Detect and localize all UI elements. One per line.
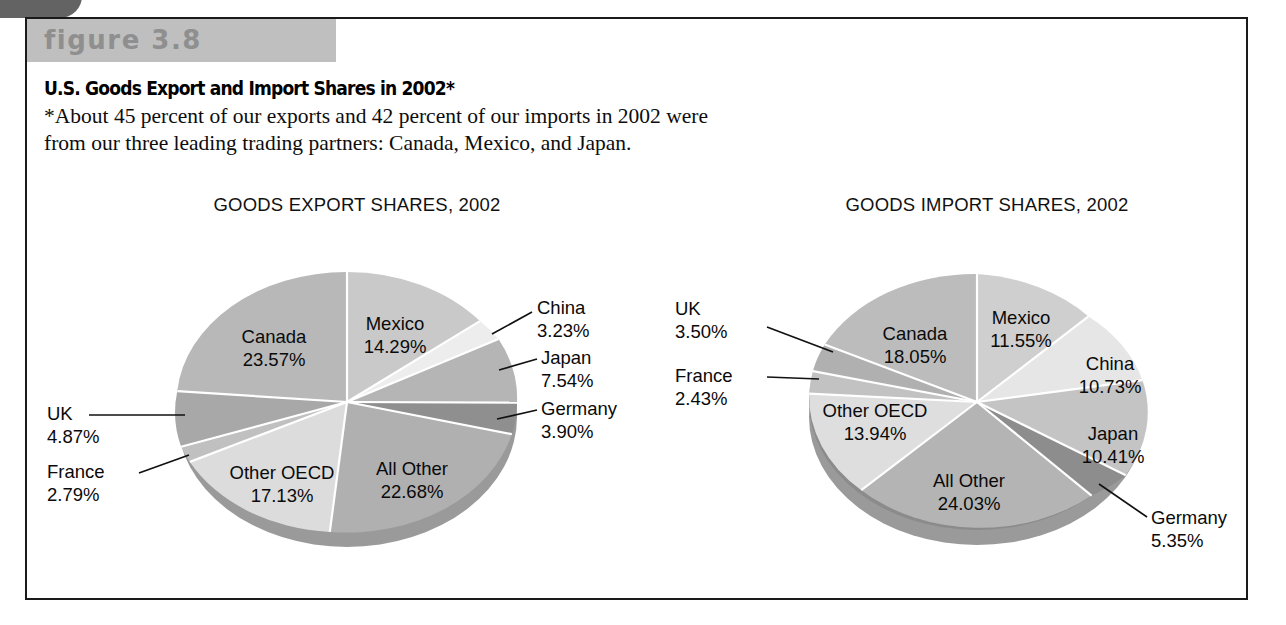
label-other-oecd-name: Other OECD [230, 462, 335, 483]
figure-title: U.S. Goods Export and Import Shares in 2… [44, 77, 454, 99]
label-mexico-name: Mexico [992, 307, 1051, 328]
callout-germany-pct: 3.90% [541, 421, 593, 442]
figure-number-label: figure 3.8 [44, 25, 202, 55]
callout-japan-name: Japan [541, 347, 591, 368]
label-mexico-name: Mexico [366, 313, 425, 334]
label-all-other-pct: 22.68% [381, 481, 444, 502]
label-china-pct: 10.73% [1079, 376, 1142, 397]
label-other-oecd-name: Other OECD [823, 400, 928, 421]
leader-france [767, 377, 819, 379]
callout-china-name: China [537, 297, 586, 318]
import-pie-svg: Mexico 11.55% Canada 18.05% China 10.73%… [647, 212, 1247, 602]
callout-japan-pct: 7.54% [541, 370, 593, 391]
label-canada-name: Canada [242, 326, 308, 347]
callout-uk-name: UK [47, 403, 73, 424]
callout-germany-name: Germany [541, 398, 618, 419]
leader-uk [767, 327, 833, 352]
label-japan-pct: 10.41% [1082, 446, 1145, 467]
label-japan-name: Japan [1088, 423, 1138, 444]
label-canada-pct: 23.57% [243, 349, 306, 370]
label-china-name: China [1086, 353, 1135, 374]
figure-number-band: figure 3.8 [27, 19, 336, 62]
callout-china-pct: 3.23% [537, 320, 589, 341]
callout-uk-pct: 3.50% [675, 321, 727, 342]
callout-germany-pct: 5.35% [1151, 530, 1203, 551]
figure-note-line-1: *About 45 percent of our exports and 42 … [44, 103, 1004, 130]
figure-frame: figure 3.8 U.S. Goods Export and Import … [25, 17, 1248, 600]
callout-france-pct: 2.43% [675, 388, 727, 409]
label-all-other-name: All Other [933, 470, 1005, 491]
label-canada-pct: 18.05% [884, 346, 947, 367]
label-other-oecd-pct: 17.13% [251, 485, 314, 506]
callout-uk-name: UK [675, 298, 701, 319]
page-corner-tab [0, 0, 82, 18]
leader-germany [1099, 484, 1147, 517]
callout-uk-pct: 4.87% [47, 426, 99, 447]
figure-note: *About 45 percent of our exports and 42 … [44, 103, 1004, 157]
callout-france-name: France [675, 365, 733, 386]
callout-france-pct: 2.79% [47, 484, 99, 505]
label-mexico-pct: 11.55% [990, 330, 1051, 351]
figure-note-line-2: from our three leading trading partners:… [44, 130, 1004, 157]
label-canada-name: Canada [883, 323, 949, 344]
label-all-other-name: All Other [376, 458, 448, 479]
label-mexico-pct: 14.29% [364, 336, 427, 357]
export-pie-svg: Mexico 14.29% Canada 23.57% All Other 22… [37, 212, 657, 602]
label-other-oecd-pct: 13.94% [844, 423, 907, 444]
label-all-other-pct: 24.03% [938, 493, 1001, 514]
callout-france-name: France [47, 461, 105, 482]
callout-germany-name: Germany [1151, 507, 1228, 528]
leader-china [492, 312, 532, 334]
leader-france [139, 455, 189, 473]
